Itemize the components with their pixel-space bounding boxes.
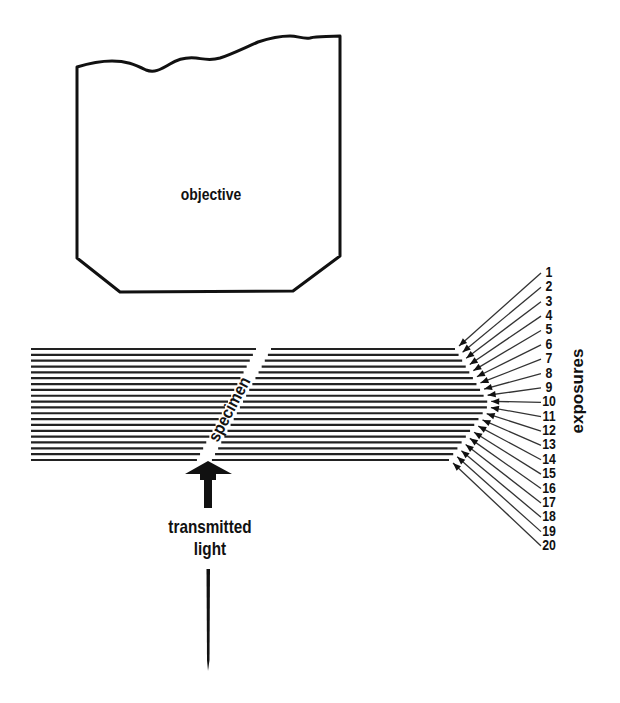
arrow-tail-line <box>207 569 211 671</box>
arrowhead-icon <box>477 370 486 376</box>
exposure-ray <box>474 432 541 474</box>
arrowhead-icon <box>491 406 499 412</box>
exposure-ray <box>470 316 541 364</box>
arrowhead-icon <box>487 413 496 419</box>
objective: objective <box>77 36 340 292</box>
exposure-ray <box>491 406 541 417</box>
exposure-number: 20 <box>542 537 556 553</box>
arrowhead-icon <box>484 384 493 390</box>
light-beam-lines <box>31 349 487 460</box>
arrowhead-icon <box>480 377 489 383</box>
transmitted-light-arrow: transmitted light <box>168 461 251 671</box>
objective-label: objective <box>181 185 242 204</box>
arrowhead-icon <box>473 364 482 371</box>
arrowhead-icon <box>470 438 478 445</box>
exposure-ray <box>470 438 541 488</box>
exposure-ray <box>457 457 541 532</box>
objective-outline <box>77 36 340 292</box>
exposure-ray <box>488 388 541 397</box>
arrowhead-icon <box>466 351 474 358</box>
exposure-numbers: 1234567891011121314151617181920 <box>542 264 556 553</box>
transmitted-label: transmitted <box>168 517 251 537</box>
arrowhead-icon <box>466 445 474 452</box>
diagram-canvas: objective specimen 123456789101112131415… <box>0 0 620 703</box>
exposure-rays <box>453 273 541 546</box>
arrowhead-icon <box>478 426 487 433</box>
light-label: light <box>194 539 227 559</box>
exposures-label: exposures <box>568 348 587 433</box>
arrow-head-icon <box>185 461 232 508</box>
arrowhead-icon <box>488 391 496 397</box>
exposure-ray <box>453 463 541 546</box>
exposure-ray <box>484 374 541 391</box>
exposure-ray <box>491 398 541 404</box>
arrowhead-icon <box>474 432 482 439</box>
arrowhead-icon <box>491 398 499 404</box>
exposure-ray <box>459 273 541 346</box>
arrowhead-icon <box>482 420 491 426</box>
arrowhead-icon <box>470 357 478 364</box>
